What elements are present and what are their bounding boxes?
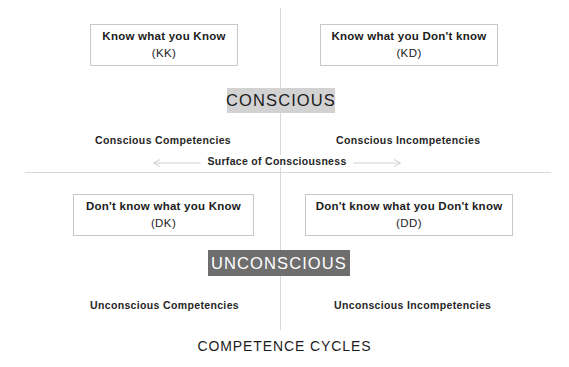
quadrant-box-kd: Know what you Don't know (KD) (320, 24, 498, 66)
diagram-title: COMPETENCE CYCLES (0, 338, 569, 354)
surface-of-consciousness-group: Surface of Consciousness (150, 155, 404, 171)
quadrant-box-kk: Know what you Know (KK) (90, 24, 238, 66)
surface-of-consciousness-label: Surface of Consciousness (200, 155, 353, 167)
caption-conscious-competencies: Conscious Competencies (95, 134, 231, 146)
quadrant-box-dd-text: Don't know what you Don't know (316, 198, 503, 215)
quadrant-box-kd-code: (KD) (396, 45, 421, 62)
quadrant-box-dk: Don't know what you Know (DK) (73, 194, 254, 236)
competence-cycles-diagram: Know what you Know (KK) Know what you Do… (0, 0, 569, 367)
quadrant-box-dd-code: (DD) (396, 215, 422, 232)
horizontal-divider-line (25, 172, 551, 173)
unconscious-badge: UNCONSCIOUS (208, 250, 350, 276)
quadrant-box-dk-code: (DK) (151, 215, 176, 232)
quadrant-box-dk-text: Don't know what you Know (86, 198, 241, 215)
quadrant-box-dd: Don't know what you Don't know (DD) (305, 194, 513, 236)
quadrant-box-kd-text: Know what you Don't know (331, 28, 486, 45)
quadrant-box-kk-code: (KK) (152, 45, 177, 62)
caption-conscious-incompetencies: Conscious Incompetencies (336, 134, 480, 146)
caption-unconscious-competencies: Unconscious Competencies (90, 299, 239, 311)
conscious-badge: CONSCIOUS (227, 88, 335, 113)
caption-unconscious-incompetencies: Unconscious Incompetencies (334, 299, 491, 311)
quadrant-box-kk-text: Know what you Know (102, 28, 225, 45)
